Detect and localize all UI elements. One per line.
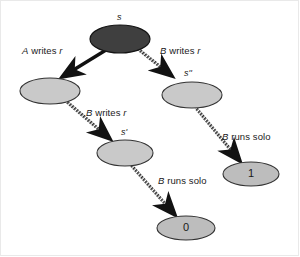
edge-label-b-runs-solo-bottom: B runs solo [158,175,207,186]
edge-label-b-writes-r-right: B writes r [160,45,201,56]
edge-label-b-runs-solo-right: B runs solo [222,131,271,142]
node-root[interactable] [90,25,150,53]
edge-label-a-writes-r: A writes r [22,45,63,56]
node-s-double-prime[interactable] [162,82,222,108]
node-value-one: 1 [236,167,266,179]
node-label-s-prime: s' [121,127,127,137]
node-label-root: s [117,12,122,22]
node-label-s-double-prime: s'' [184,68,192,78]
nodes-layer [0,0,300,257]
diagram-canvas: s s'' s' 1 0 A writes r B writes r B wri… [0,0,300,257]
node-s-prime[interactable] [97,140,153,166]
edge-label-b-writes-r-mid: B writes r [86,107,127,118]
node-value-zero: 0 [171,221,201,233]
node-left[interactable] [20,78,80,104]
